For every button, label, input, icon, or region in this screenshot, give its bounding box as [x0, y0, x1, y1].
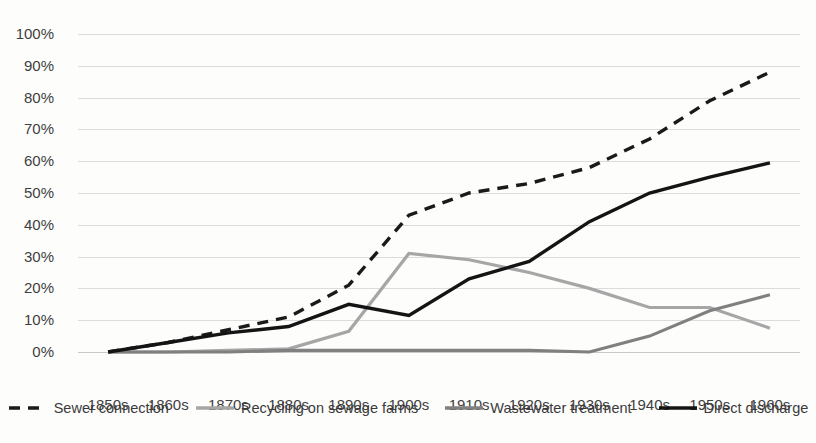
- y-axis-tick-label: 10%: [0, 311, 54, 328]
- y-axis-tick-label: 80%: [0, 89, 54, 106]
- series-line: [108, 295, 770, 352]
- legend-item[interactable]: Recycling on sewage farms: [195, 400, 418, 416]
- legend-item[interactable]: Direct discharge: [658, 400, 809, 416]
- legend-swatch-icon: [8, 403, 48, 413]
- legend-item[interactable]: Sewer connection: [8, 400, 169, 416]
- y-axis-tick-label: 100%: [0, 25, 54, 42]
- y-axis-tick-label: 0%: [0, 343, 54, 360]
- y-axis-tick-label: 20%: [0, 279, 54, 296]
- series-line: [108, 72, 770, 352]
- legend-label: Recycling on sewage farms: [241, 400, 418, 416]
- plot-area: 0%10%20%30%40%50%60%70%80%90%100% 1850s1…: [78, 34, 800, 352]
- y-axis-tick-label: 40%: [0, 216, 54, 233]
- y-axis-tick-label: 70%: [0, 120, 54, 137]
- legend-label: Sewer connection: [54, 400, 169, 416]
- chart-legend: Sewer connectionRecycling on sewage farm…: [0, 400, 816, 416]
- legend-item[interactable]: Wastewater treatment: [444, 400, 631, 416]
- y-axis-tick-label: 30%: [0, 248, 54, 265]
- legend-swatch-icon: [444, 403, 484, 413]
- y-axis-tick-label: 50%: [0, 184, 54, 201]
- line-chart: 0%10%20%30%40%50%60%70%80%90%100% 1850s1…: [0, 0, 816, 443]
- legend-label: Direct discharge: [704, 400, 809, 416]
- y-axis-tick-label: 90%: [0, 57, 54, 74]
- legend-swatch-icon: [658, 403, 698, 413]
- y-axis-tick-label: 60%: [0, 152, 54, 169]
- series-layer: [78, 34, 800, 352]
- legend-swatch-icon: [195, 403, 235, 413]
- legend-label: Wastewater treatment: [490, 400, 631, 416]
